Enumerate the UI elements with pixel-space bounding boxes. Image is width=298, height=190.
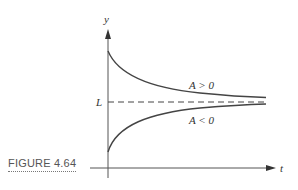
- curve-a-negative: [108, 104, 266, 152]
- equilibrium-label: L: [95, 96, 102, 108]
- figure-caption: FIGURE 4.64: [8, 157, 76, 172]
- x-axis-arrow-icon: [266, 165, 276, 171]
- x-axis-label: t: [280, 162, 284, 174]
- y-axis-label: y: [103, 13, 109, 25]
- curve-a-positive: [108, 51, 266, 98]
- y-axis-arrow-icon: [105, 29, 111, 39]
- curve-label-a-negative: A < 0: [188, 114, 214, 126]
- curve-label-a-positive: A > 0: [188, 79, 214, 91]
